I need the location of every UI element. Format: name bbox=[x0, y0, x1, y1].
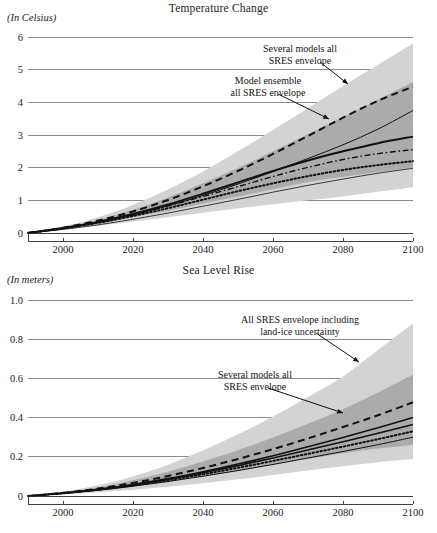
annotation-arrow-head bbox=[353, 357, 359, 362]
y-tick-label: 4 bbox=[18, 97, 24, 108]
y-tick-label: 0.4 bbox=[10, 412, 24, 423]
axes bbox=[28, 496, 413, 504]
x-tick-label: 2080 bbox=[333, 244, 354, 255]
x-tick-label: 2000 bbox=[53, 244, 74, 255]
x-tick-label: 2020 bbox=[123, 507, 144, 518]
x-tick-label: 2100 bbox=[403, 244, 424, 255]
x-axis-tick-labels: 200020202040206020802100 bbox=[53, 244, 424, 255]
x-tick-label: 2080 bbox=[333, 507, 354, 518]
y-tick-label: 3 bbox=[18, 130, 23, 141]
annotation-text: Model ensembleall SRES envelope bbox=[231, 75, 307, 98]
x-tick-label: 2040 bbox=[193, 244, 214, 255]
all-sres-landice-annotation: All SRES envelope includingland-ice unce… bbox=[241, 314, 359, 362]
climate-projections-figure: Temperature Change (In Celsius) 01234562… bbox=[0, 0, 437, 533]
axes bbox=[28, 233, 413, 241]
y-tick-label: 0.8 bbox=[10, 334, 23, 345]
y-tick-label: 0.2 bbox=[10, 451, 23, 462]
x-tick-label: 2040 bbox=[193, 507, 214, 518]
x-tick-label: 2000 bbox=[53, 507, 74, 518]
y-tick-label: 0 bbox=[18, 228, 23, 239]
temperature-plot: 0123456200020202040206020802100Several m… bbox=[0, 0, 437, 262]
sea-level-plot: 00.20.40.60.81.0200020202040206020802100… bbox=[0, 262, 437, 533]
y-tick-label: 2 bbox=[18, 162, 23, 173]
x-tick-label: 2060 bbox=[263, 507, 284, 518]
y-axis-tick-labels: 0123456 bbox=[18, 32, 24, 239]
annotation-text: All SRES envelope includingland-ice unce… bbox=[241, 314, 359, 337]
panel-sea-level-rise: Sea Level Rise (In meters) 00.20.40.60.8… bbox=[0, 262, 437, 533]
y-tick-label: 5 bbox=[18, 64, 23, 75]
annotation-text: Several models allSRES envelope bbox=[218, 369, 292, 392]
y-tick-label: 1.0 bbox=[10, 295, 23, 306]
y-tick-label: 6 bbox=[18, 32, 23, 43]
y-tick-label: 0 bbox=[18, 491, 23, 502]
panel-temperature-change: Temperature Change (In Celsius) 01234562… bbox=[0, 0, 437, 262]
x-tick-label: 2020 bbox=[123, 244, 144, 255]
y-tick-label: 1 bbox=[18, 195, 23, 206]
y-tick-label: 0.6 bbox=[10, 373, 23, 384]
x-tick-label: 2060 bbox=[263, 244, 284, 255]
annotation-text: Several models allSRES envelope bbox=[263, 43, 337, 66]
x-axis-tick-labels: 200020202040206020802100 bbox=[53, 507, 424, 518]
x-tick-label: 2100 bbox=[403, 507, 424, 518]
y-axis-tick-labels: 00.20.40.60.81.0 bbox=[10, 295, 24, 502]
